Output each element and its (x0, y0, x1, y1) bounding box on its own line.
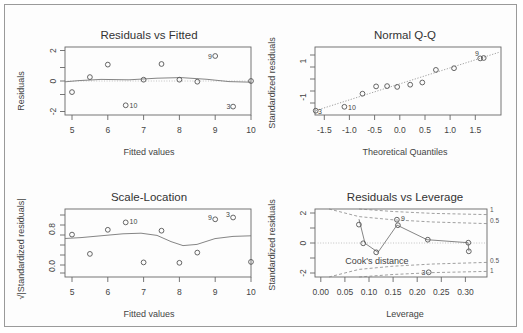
y-tick-label: 0.0 (47, 260, 57, 272)
point-label: 3 (318, 108, 322, 115)
x-tick-label: 5 (70, 287, 75, 297)
x-axis-label: Leverage (386, 309, 424, 319)
x-tick-label: 7 (141, 125, 146, 135)
data-points (313, 56, 486, 114)
x-tick-label: 6 (105, 125, 110, 135)
y-tick-label: 2 (48, 48, 58, 53)
panel-title: Scale-Location (111, 191, 187, 203)
y-ticks: 0.8 0.0 (47, 215, 65, 273)
x-tick-label: 1.0 (444, 125, 456, 135)
point-labels: 10 9 3 (130, 211, 231, 225)
x-tick-label: 0.00 (313, 287, 330, 297)
x-tick-label: 0.20 (409, 287, 426, 297)
qq-reference-line (316, 52, 500, 111)
y-ticks: 2 0 -2 (48, 48, 65, 115)
cooks-distance-label: Cook's distance (345, 256, 408, 266)
cooks-level-label: 0.5 (490, 257, 499, 264)
panel-residuals-vs-leverage: Residuals vs Leverage Leverage Standardi… (263, 183, 513, 323)
point-labels: 9 3 (401, 215, 426, 276)
point-label: 10 (130, 102, 138, 109)
cooks-distance-contours: 1 0.5 0.5 1 Cook's distance (329, 206, 499, 277)
x-tick-label: 5 (70, 125, 75, 135)
cooks-contour-05-top (329, 209, 487, 224)
x-tick-label: 7 (141, 287, 146, 297)
point-label: 10 (130, 218, 138, 225)
x-tick-label: 0.0 (394, 125, 406, 135)
point-label: 10 (348, 104, 356, 111)
cooks-contour-side-labels: 1 0.5 0.5 1 (490, 206, 499, 274)
y-ticks: 2 0 -2 (298, 210, 315, 276)
x-tick-label: 8 (177, 287, 182, 297)
cooks-level-label: 1 (490, 267, 494, 274)
y-axis-label: Residuals (16, 71, 26, 111)
point-label: 3 (226, 211, 230, 218)
panel-title: Normal Q-Q (374, 29, 436, 41)
x-axis-label: Theoretical Quantiles (362, 147, 448, 157)
plot-area: 2 0 -2 5 6 7 8 9 10 (48, 47, 256, 135)
y-axis-label: Standardized residuals (267, 199, 277, 291)
x-ticks: 5 6 7 8 9 10 (70, 115, 256, 135)
data-points (70, 215, 254, 265)
scale-location-svg: Scale-Location Fitted values √|Standardi… (11, 183, 263, 323)
residuals-vs-fitted-svg: Residuals vs Fitted Fitted values Residu… (11, 21, 263, 161)
x-tick-label: 0.05 (337, 287, 354, 297)
lowess-smoother (65, 78, 251, 83)
y-tick-label: 0.8 (47, 223, 57, 235)
x-ticks: 5 6 7 8 9 10 (70, 277, 256, 297)
x-tick-label: 1.5 (469, 125, 481, 135)
y-tick-label: -2 (298, 269, 308, 277)
x-tick-label: 6 (105, 287, 110, 297)
x-ticks: -1.5 -1.0 -0.5 0.0 0.5 1.0 1.5 (317, 115, 482, 135)
plot-area: 2 0 -2 0.00 0.05 0.10 0.15 0.20 (298, 206, 499, 297)
y-tick-label: 0 (48, 78, 58, 83)
y-ticks: 1 -1 (298, 55, 315, 103)
x-axis-label: Fitted values (123, 309, 175, 319)
point-labels: 3 10 9 (318, 50, 479, 115)
lowess-smoother (65, 233, 251, 245)
cooks-level-label: 0.5 (490, 217, 499, 224)
x-tick-label: -1.0 (342, 125, 357, 135)
plot-area: 1 -1 -1.5 -1.0 -0.5 0.0 0.5 1.0 (298, 47, 501, 135)
x-axis-label: Fitted values (123, 147, 175, 157)
x-tick-label: 10 (246, 125, 256, 135)
point-label: 9 (401, 215, 405, 222)
x-tick-label: 0.25 (433, 287, 450, 297)
figure-frame: Residuals vs Fitted Fitted values Residu… (4, 4, 517, 327)
y-tick-label: -2 (48, 107, 58, 115)
x-tick-label: 0.10 (361, 287, 378, 297)
point-label: 3 (422, 269, 426, 276)
lowess-smoother (359, 219, 469, 252)
residuals-vs-leverage-svg: Residuals vs Leverage Leverage Standardi… (263, 183, 513, 323)
x-tick-label: 0.30 (457, 287, 474, 297)
x-tick-label: 9 (213, 287, 218, 297)
point-label: 9 (208, 214, 212, 221)
x-tick-label: -1.5 (317, 125, 332, 135)
y-tick-label: 1 (298, 58, 308, 63)
normal-qq-svg: Normal Q-Q Theoretical Quantiles Standar… (263, 21, 513, 161)
x-tick-label: 0.5 (419, 125, 431, 135)
data-points (357, 217, 472, 274)
y-tick-label: -1 (298, 93, 308, 101)
y-tick-label: 2 (298, 210, 308, 215)
plot-area: 0.8 0.0 5 6 7 8 9 10 (47, 209, 256, 297)
y-axis-label: √|Standardized residuals| (16, 198, 26, 299)
cooks-level-label: 1 (490, 206, 494, 213)
panel-normal-qq: Normal Q-Q Theoretical Quantiles Standar… (263, 21, 513, 161)
panel-title: Residuals vs Leverage (347, 191, 463, 203)
x-tick-label: 8 (177, 125, 182, 135)
y-axis-label: Standardized residuals (267, 37, 277, 129)
x-tick-label: 10 (246, 287, 256, 297)
panel-residuals-vs-fitted: Residuals vs Fitted Fitted values Residu… (11, 21, 263, 161)
x-tick-label: -0.5 (367, 125, 382, 135)
x-tick-label: 9 (213, 125, 218, 135)
point-label: 9 (475, 50, 479, 57)
x-ticks: 0.00 0.05 0.10 0.15 0.20 0.25 0.30 (313, 277, 474, 297)
point-label: 3 (227, 103, 231, 110)
panel-title: Residuals vs Fitted (100, 29, 197, 41)
cooks-contour-1-top (359, 209, 487, 215)
panel-scale-location: Scale-Location Fitted values √|Standardi… (11, 183, 263, 323)
y-tick-label: 0 (298, 240, 308, 245)
x-tick-label: 0.15 (385, 287, 402, 297)
point-label: 9 (208, 53, 212, 60)
